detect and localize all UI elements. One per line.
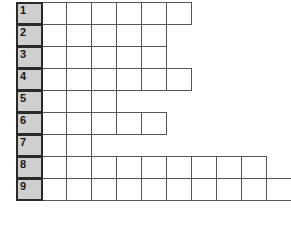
crossword-cell[interactable] bbox=[91, 90, 117, 113]
clue-number-cell-7: 7 bbox=[16, 134, 43, 157]
crossword-row: 6 bbox=[16, 112, 291, 135]
crossword-cell[interactable] bbox=[216, 156, 242, 179]
crossword-cell[interactable] bbox=[141, 178, 167, 201]
crossword-cell[interactable] bbox=[116, 24, 142, 47]
crossword-cell[interactable] bbox=[166, 2, 192, 25]
crossword-cell[interactable] bbox=[41, 156, 67, 179]
clue-number-label: 6 bbox=[20, 114, 26, 127]
crossword-cell[interactable] bbox=[141, 112, 167, 135]
crossword-cell[interactable] bbox=[141, 46, 167, 69]
crossword-grid: 123456789 bbox=[16, 2, 291, 201]
clue-number-label: 8 bbox=[20, 158, 26, 171]
crossword-cell[interactable] bbox=[91, 156, 117, 179]
clue-number-label: 2 bbox=[20, 26, 26, 39]
crossword-cell[interactable] bbox=[241, 156, 267, 179]
clue-number-cell-2: 2 bbox=[16, 24, 43, 47]
crossword-cell[interactable] bbox=[241, 178, 267, 201]
crossword-cell[interactable] bbox=[91, 24, 117, 47]
crossword-cell[interactable] bbox=[166, 68, 192, 91]
crossword-cell[interactable] bbox=[41, 134, 67, 157]
clue-number-label: 9 bbox=[20, 180, 26, 193]
crossword-cell[interactable] bbox=[66, 156, 92, 179]
crossword-cell[interactable] bbox=[66, 46, 92, 69]
crossword-cell[interactable] bbox=[116, 112, 142, 135]
crossword-cell[interactable] bbox=[116, 46, 142, 69]
crossword-cell[interactable] bbox=[41, 112, 67, 135]
clue-number-label: 3 bbox=[20, 48, 26, 61]
clue-number-cell-4: 4 bbox=[16, 68, 43, 91]
clue-number-cell-3: 3 bbox=[16, 46, 43, 69]
clue-number-cell-1: 1 bbox=[16, 2, 43, 25]
crossword-cell[interactable] bbox=[41, 2, 67, 25]
crossword-row: 4 bbox=[16, 68, 291, 91]
crossword-cell[interactable] bbox=[116, 68, 142, 91]
crossword-cell[interactable] bbox=[116, 178, 142, 201]
crossword-cell[interactable] bbox=[116, 156, 142, 179]
crossword-cell[interactable] bbox=[216, 178, 242, 201]
crossword-cell[interactable] bbox=[141, 2, 167, 25]
crossword-cell[interactable] bbox=[191, 156, 217, 179]
crossword-cell[interactable] bbox=[141, 68, 167, 91]
crossword-cell[interactable] bbox=[41, 24, 67, 47]
crossword-cell[interactable] bbox=[91, 178, 117, 201]
clue-number-cell-8: 8 bbox=[16, 156, 43, 179]
clue-number-label: 4 bbox=[20, 70, 26, 83]
crossword-cell[interactable] bbox=[91, 46, 117, 69]
crossword-row: 9 bbox=[16, 178, 291, 201]
crossword-row: 3 bbox=[16, 46, 291, 69]
crossword-cell[interactable] bbox=[66, 178, 92, 201]
crossword-cell[interactable] bbox=[166, 156, 192, 179]
crossword-cell[interactable] bbox=[41, 90, 67, 113]
crossword-cell[interactable] bbox=[66, 134, 92, 157]
crossword-cell[interactable] bbox=[91, 2, 117, 25]
crossword-cell[interactable] bbox=[41, 46, 67, 69]
clue-number-cell-5: 5 bbox=[16, 90, 43, 113]
crossword-cell[interactable] bbox=[141, 24, 167, 47]
crossword-cell[interactable] bbox=[91, 112, 117, 135]
crossword-cell[interactable] bbox=[66, 24, 92, 47]
crossword-row: 5 bbox=[16, 90, 291, 113]
crossword-cell[interactable] bbox=[166, 178, 192, 201]
crossword-cell[interactable] bbox=[66, 112, 92, 135]
crossword-cell[interactable] bbox=[91, 68, 117, 91]
clue-number-label: 5 bbox=[20, 92, 26, 105]
crossword-cell[interactable] bbox=[41, 68, 67, 91]
crossword-row: 7 bbox=[16, 134, 291, 157]
crossword-cell[interactable] bbox=[191, 178, 217, 201]
clue-number-label: 1 bbox=[20, 4, 26, 17]
crossword-cell[interactable] bbox=[116, 2, 142, 25]
clue-number-label: 7 bbox=[20, 136, 26, 149]
crossword-cell[interactable] bbox=[41, 178, 67, 201]
crossword-row: 1 bbox=[16, 2, 291, 25]
crossword-cell[interactable] bbox=[66, 90, 92, 113]
crossword-cell[interactable] bbox=[66, 68, 92, 91]
crossword-cell[interactable] bbox=[141, 156, 167, 179]
clue-number-cell-6: 6 bbox=[16, 112, 43, 135]
crossword-puzzle: 123456789 bbox=[0, 0, 291, 235]
crossword-cell[interactable] bbox=[66, 2, 92, 25]
crossword-cell[interactable] bbox=[266, 178, 291, 201]
crossword-row: 2 bbox=[16, 24, 291, 47]
crossword-row: 8 bbox=[16, 156, 291, 179]
clue-number-cell-9: 9 bbox=[16, 178, 43, 201]
